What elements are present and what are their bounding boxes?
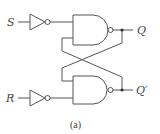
- qprime-label: Q′: [136, 84, 148, 97]
- s-inverter-icon: [30, 14, 45, 30]
- s-label: S: [7, 16, 15, 29]
- caption: (a): [70, 119, 81, 131]
- nand-top-bubble: [108, 28, 113, 33]
- circuit-svg: S R Q Q′ (a): [0, 0, 160, 134]
- nand-top-icon: [73, 15, 108, 45]
- qprime-junction-dot: [120, 88, 123, 91]
- r-inverter-icon: [30, 90, 45, 106]
- q-junction-dot: [120, 28, 123, 31]
- sr-latch-diagram: S R Q Q′ (a): [0, 0, 160, 134]
- nand-bottom-bubble: [108, 88, 113, 93]
- r-label: R: [5, 92, 14, 105]
- r-inverter-bubble: [45, 96, 50, 101]
- q-label: Q: [137, 24, 146, 37]
- nand-bottom-icon: [73, 76, 107, 104]
- s-inverter-bubble: [45, 20, 50, 25]
